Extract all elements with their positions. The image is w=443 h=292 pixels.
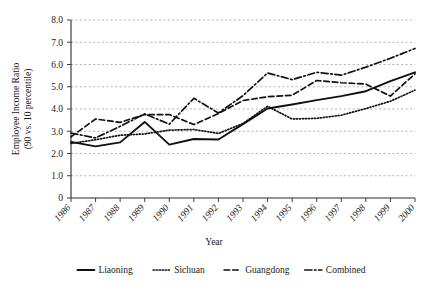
x-tick-label: 2000 [396,202,416,223]
income-ratio-line-chart: 01.02.03.04.05.06.07.08.0 19861987198819… [0,0,443,292]
x-tick-marks [71,198,415,202]
y-tick-label: 7.0 [51,38,63,48]
x-tick-label: 1991 [175,203,195,224]
legend-label-guangdong: Guangdong [245,265,290,275]
y-tick-labels: 01.02.03.04.05.06.07.08.0 [51,15,63,203]
x-tick-label: 1988 [101,202,121,223]
y-gridlines [71,20,415,176]
x-tick-label: 1996 [298,202,318,223]
x-tick-label: 1987 [77,202,98,224]
x-tick-label: 1998 [347,202,367,223]
x-tick-label: 1986 [52,202,72,223]
y-tick-label: 3.0 [51,127,63,137]
series-line-guangdong [71,74,415,137]
y-tick-label: 5.0 [51,82,63,92]
legend-label-combined: Combined [326,265,366,275]
x-tick-label: 1992 [200,202,220,223]
x-tick-label: 1990 [151,202,171,223]
y-axis-title-line2: (90 vs. 10 percentile) [23,69,34,150]
y-tick-label: 4.0 [51,104,63,114]
chart-figure: 01.02.03.04.05.06.07.08.0 19861987198819… [0,0,443,292]
x-tick-label: 1997 [323,202,344,224]
series-line-sichuan [71,90,415,143]
x-tick-label: 1999 [372,202,392,223]
x-tick-label: 1993 [224,202,244,223]
y-tick-marks [67,20,71,198]
x-tick-label: 1995 [273,202,293,223]
y-tick-label: 6.0 [51,60,63,70]
y-tick-label: 0 [58,193,63,203]
chart-legend: LiaoningSichuanGuangdongCombined [77,265,365,275]
legend-label-liaoning: Liaoning [98,265,133,275]
data-series-group [71,48,415,146]
y-tick-label: 1.0 [51,171,63,181]
x-tick-labels: 1986198719881989199019911992199319941995… [52,202,416,224]
y-axis-title-line1: Employee Income Ratio [11,63,21,156]
x-tick-label: 1994 [249,202,269,223]
y-tick-label: 8.0 [51,15,63,25]
legend-label-sichuan: Sichuan [174,265,205,275]
x-tick-label: 1989 [126,202,146,223]
x-axis-title: Year [205,237,223,247]
y-tick-label: 2.0 [51,149,63,159]
